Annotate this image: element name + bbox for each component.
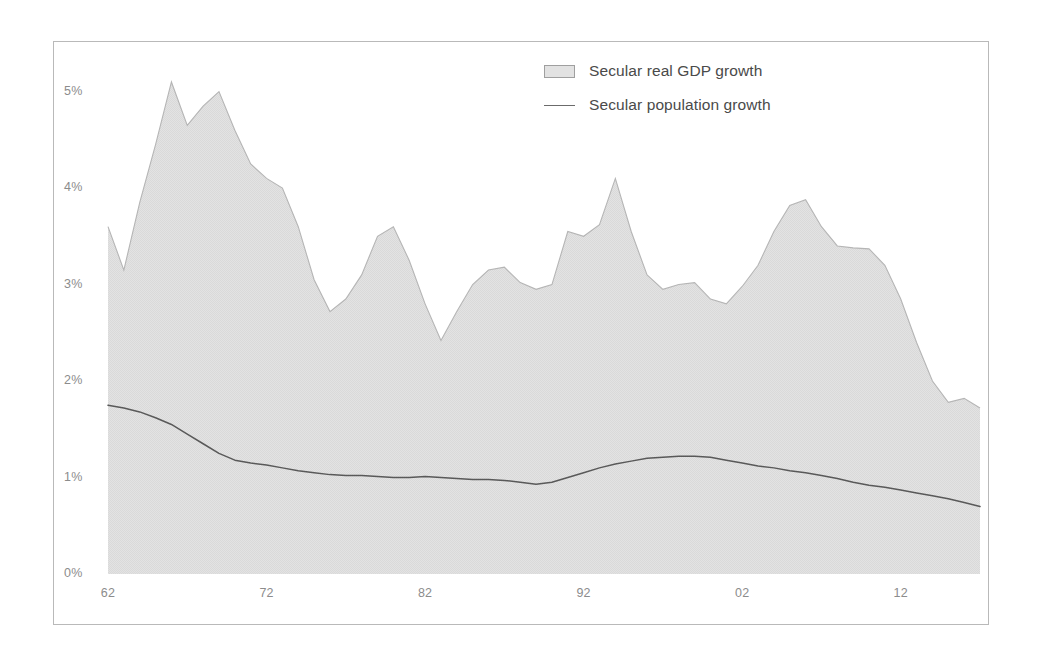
y-tick-label: 5% xyxy=(64,84,82,98)
x-tick-label: 62 xyxy=(101,586,115,600)
x-tick-label: 02 xyxy=(735,586,749,600)
legend-area-swatch-icon xyxy=(544,65,575,78)
chart-frame: Secular real GDP growth Secular populati… xyxy=(53,41,989,625)
x-tick-label: 12 xyxy=(894,586,908,600)
chart-plot xyxy=(54,42,990,626)
x-tick-label: 72 xyxy=(259,586,273,600)
legend-item-population: Secular population growth xyxy=(544,88,924,122)
x-tick-label: 82 xyxy=(418,586,432,600)
legend-item-gdp: Secular real GDP growth xyxy=(544,54,924,88)
y-tick-label: 3% xyxy=(64,277,82,291)
legend-label-population: Secular population growth xyxy=(589,96,771,114)
y-tick-label: 1% xyxy=(64,470,82,484)
legend-line-swatch-icon xyxy=(544,99,575,112)
series-area-secular-real-gdp-growth xyxy=(108,82,980,574)
y-tick-label: 2% xyxy=(64,373,82,387)
chart-legend: Secular real GDP growth Secular populati… xyxy=(544,54,924,122)
y-tick-label: 4% xyxy=(64,180,82,194)
legend-label-gdp: Secular real GDP growth xyxy=(589,62,762,80)
y-tick-label: 0% xyxy=(64,566,82,580)
x-tick-label: 92 xyxy=(576,586,590,600)
